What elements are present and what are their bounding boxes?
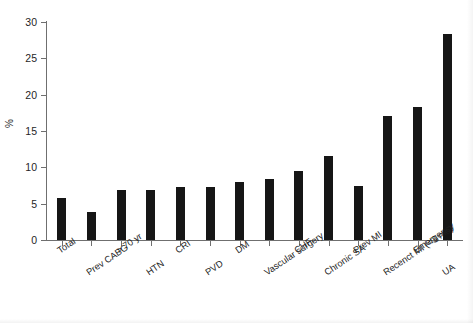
x-tick-label: PVD: [204, 259, 225, 277]
bar[interactable]: [265, 179, 274, 240]
bar[interactable]: [443, 34, 452, 240]
bar[interactable]: [235, 182, 244, 240]
y-tick-label: 5: [0, 199, 37, 210]
bar[interactable]: [383, 116, 392, 240]
x-tick-mark: [388, 241, 389, 246]
x-tick-mark: [269, 241, 270, 246]
y-tick-mark: [41, 240, 47, 241]
y-tick-label: 20: [0, 90, 37, 101]
bar-chart-figure: % 051015202530 TotalPrev CABG> 70 yrHTNC…: [0, 0, 473, 323]
x-tick-mark: [329, 241, 330, 246]
x-tick-label: UA: [441, 263, 457, 278]
bar[interactable]: [176, 187, 185, 240]
bar[interactable]: [57, 198, 66, 240]
x-tick-mark: [447, 241, 448, 246]
y-tick-label: 30: [0, 17, 37, 28]
bar[interactable]: [354, 186, 363, 241]
plot-area: [47, 22, 462, 240]
x-tick-mark: [151, 241, 152, 246]
x-tick-label: DM: [234, 240, 251, 256]
y-tick-label: 25: [0, 53, 37, 64]
x-tick-mark: [210, 241, 211, 246]
x-tick-label: CRI: [174, 239, 192, 256]
scan-artifact-bottom: [0, 319, 473, 323]
bar[interactable]: [87, 212, 96, 240]
y-tick-label: 10: [0, 162, 37, 173]
bar[interactable]: [146, 190, 155, 240]
y-tick-label: 15: [0, 126, 37, 137]
scan-artifact-right: [467, 0, 473, 323]
x-tick-mark: [91, 241, 92, 246]
bar[interactable]: [294, 171, 303, 240]
bar[interactable]: [117, 190, 126, 240]
y-tick-label: 0: [0, 235, 37, 246]
bar[interactable]: [413, 107, 422, 240]
x-tick-label: HTN: [145, 259, 166, 277]
bar[interactable]: [324, 156, 333, 240]
x-axis-line: [46, 240, 463, 241]
bar[interactable]: [206, 187, 215, 240]
